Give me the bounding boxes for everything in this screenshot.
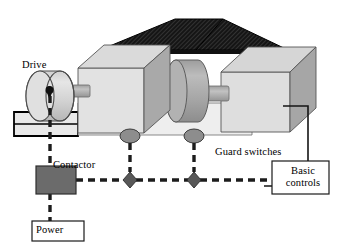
right-box-front-face: [221, 72, 290, 132]
guard-switches-label: Guard switches: [215, 146, 281, 158]
machine-body-left: [78, 45, 170, 133]
left-box-front-face: [78, 68, 144, 133]
circuit-node-right[interactable]: [187, 172, 201, 188]
basic-controls-label-line2: controls: [277, 177, 329, 189]
motor-marker-dot-icon: [46, 86, 54, 94]
guard-switch-right[interactable]: [184, 129, 204, 143]
basic-controls-label-line1: Basic: [277, 165, 329, 177]
circuit-node-left[interactable]: [123, 172, 137, 188]
power-label: Power: [36, 224, 63, 236]
guard-switch-left[interactable]: [120, 129, 140, 143]
drive-label: Drive: [22, 59, 46, 71]
machine-body-right: [221, 47, 316, 132]
basic-controls-label: Basic controls: [277, 165, 329, 189]
machine-safety-diagram: [0, 0, 337, 251]
motor-shaft: [72, 85, 90, 97]
contactor-label: Contactor: [53, 159, 95, 171]
diagram-canvas: Drive Contactor Guard switches Power Bas…: [0, 0, 337, 251]
